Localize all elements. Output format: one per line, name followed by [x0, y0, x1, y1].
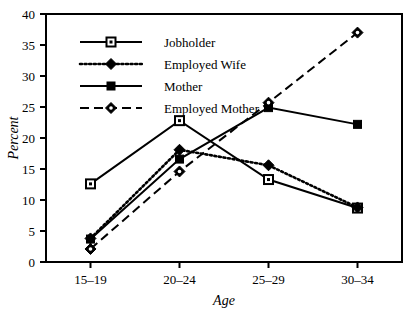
x-axis-tick-label: 15–19 — [74, 272, 107, 287]
legend-entry-label: Mother — [164, 79, 203, 94]
legend-entry-label: Jobholder — [164, 35, 216, 50]
x-axis-tick-label: 20–24 — [163, 272, 196, 287]
legend-marker-sample — [107, 82, 115, 90]
x-axis-tick-label: 30–34 — [341, 272, 374, 287]
legend-marker-sample — [107, 38, 116, 47]
y-axis: 0510152025303540 — [22, 7, 46, 270]
y-axis-tick-label: 5 — [29, 224, 36, 239]
y-axis-tick-label: 15 — [22, 162, 35, 177]
y-axis-tick-label: 10 — [22, 193, 35, 208]
legend-entry-label: Employed Mother — [164, 101, 260, 116]
y-axis-tick-label: 20 — [22, 131, 35, 146]
x-axis-title: Age — [212, 293, 235, 308]
x-axis-tick-label: 25–29 — [252, 272, 285, 287]
x-axis: 15–1920–2425–2930–34 — [74, 262, 374, 287]
y-axis-tick-label: 25 — [22, 100, 35, 115]
data-point-marker — [354, 120, 362, 128]
line-chart-figure: 0510152025303540 15–1920–2425–2930–34 Pe… — [0, 0, 420, 319]
chart-canvas: 0510152025303540 15–1920–2425–2930–34 Pe… — [0, 0, 420, 319]
data-point-marker — [86, 179, 95, 188]
y-axis-tick-label: 30 — [22, 69, 35, 84]
data-point-marker — [264, 175, 273, 184]
y-axis-title: Percent — [6, 115, 21, 160]
y-axis-tick-label: 0 — [29, 255, 36, 270]
data-point-marker — [175, 116, 184, 125]
data-point-marker — [176, 155, 184, 163]
data-point-marker — [87, 235, 95, 243]
y-axis-tick-label: 40 — [22, 7, 35, 22]
y-axis-tick-label: 35 — [22, 38, 35, 53]
legend-entry-label: Employed Wife — [164, 57, 246, 72]
